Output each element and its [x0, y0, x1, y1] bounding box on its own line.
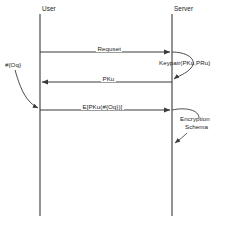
- annotation-label-user-object: #{Oq}: [5, 61, 21, 68]
- annotation-encryption-schema: Encryption Schema: [180, 115, 224, 131]
- annotation-label-encryption-schema-line1: Encryption: [180, 115, 210, 122]
- sequence-diagram: User Server Requset PKu E[PKu(#{Oq})] Ke…: [0, 0, 235, 234]
- lifeline-label-server: Server: [174, 5, 193, 12]
- self-activation-curve-user-object: [15, 70, 38, 108]
- message-label-public-key: PKu: [101, 75, 116, 82]
- annotation-label-keypair: Keypair(PKu,PRu): [159, 59, 210, 66]
- lifeline-label-user: User: [42, 5, 56, 12]
- message-label-encrypted-payload: E[PKu(#{Oq})]: [81, 103, 124, 110]
- leader-line-encryption-schema: [175, 133, 187, 143]
- message-label-request: Requset: [96, 45, 122, 52]
- annotation-label-encryption-schema-line2: Schema: [180, 123, 208, 131]
